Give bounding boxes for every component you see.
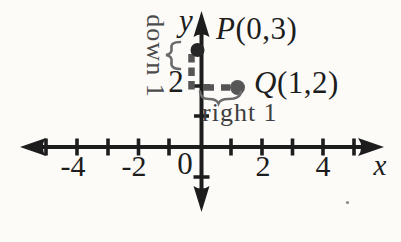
point-p-name: P [216, 11, 235, 46]
origin-label: 0 [177, 148, 193, 179]
x-tick-label-neg2: -2 [122, 151, 147, 181]
y-axis-up-arrowhead-icon [194, 11, 210, 37]
point-q-name: Q [254, 65, 277, 100]
x-tick-label-2: 2 [256, 151, 271, 181]
point-p-label: P(0,3) [216, 13, 297, 44]
y-axis-label: y [179, 5, 193, 36]
point-p-dot [191, 43, 205, 57]
y-tick-label-2: 2 [168, 66, 184, 97]
point-p-coords: (0,3) [235, 11, 297, 46]
scan-speck [346, 201, 349, 204]
point-q-dot [230, 80, 245, 95]
x-tick-label-neg4: -4 [61, 151, 86, 181]
x-tick-label-4: 4 [316, 151, 331, 181]
point-q-label: Q(1,2) [254, 67, 339, 98]
y-axis-down-arrowhead-icon [194, 186, 210, 212]
x-axis-label: x [374, 151, 387, 180]
point-q-coords: (1,2) [277, 65, 339, 100]
coordinate-plane-figure: y x P(0,3) Q(1,2) down 1 right 1 2 -4 -2… [0, 0, 401, 242]
x-axis-left-arrowhead-icon [20, 138, 46, 156]
move-right-annotation: right 1 [202, 100, 278, 126]
axes-graphic [0, 0, 401, 242]
move-down-annotation: down 1 [142, 14, 168, 97]
